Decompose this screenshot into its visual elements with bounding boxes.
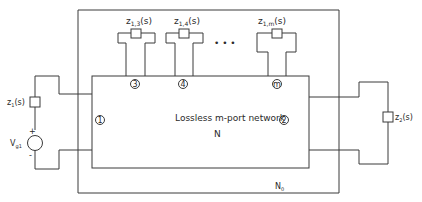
- z1m-label: z1,m(s): [258, 16, 286, 27]
- z1m-impedance-box: [272, 29, 282, 38]
- port1-bottom-wire: [35, 150, 92, 169]
- inner-network-name: N: [214, 129, 221, 139]
- svg-text:4: 4: [180, 80, 185, 89]
- port-3-marker: 3: [131, 80, 140, 90]
- port-m-marker: m: [273, 80, 282, 90]
- port-4-marker: 4: [179, 80, 188, 90]
- z2-label: z2(s): [395, 113, 413, 123]
- source-label: Vg1: [10, 139, 22, 150]
- port1-top-wire: [35, 76, 92, 97]
- voltage-source-circle: [28, 136, 43, 151]
- port2-top-wire: [309, 82, 388, 112]
- z13-impedance-box: [131, 29, 141, 38]
- source-plus: +: [29, 127, 36, 136]
- port4-loop: [166, 33, 203, 76]
- port3-loop: [118, 33, 155, 76]
- z2-impedance-box: [383, 112, 393, 122]
- port2-bottom-wire: [309, 122, 388, 164]
- z1-label: z1(s): [7, 98, 25, 108]
- svg-text:3: 3: [132, 80, 137, 89]
- z14-label: z1,4(s): [174, 16, 200, 27]
- z13-label: z1,3(s): [126, 16, 152, 27]
- source-minus: -: [29, 151, 32, 160]
- outer-network-label: N0: [275, 182, 284, 192]
- svg-text:m: m: [273, 80, 281, 89]
- z14-impedance-box: [179, 29, 189, 38]
- circuit-diagram: 1 2 3 4 m z1,3(s) z1,4(s) z1,m(s) z1(s) …: [0, 0, 422, 202]
- inner-network-title: Lossless m-port network: [175, 113, 286, 123]
- portm-loop: [257, 33, 296, 76]
- svg-text:1: 1: [97, 116, 102, 125]
- port-1-marker: 1: [96, 116, 105, 126]
- ellipsis: • • •: [214, 38, 236, 48]
- z1-impedance-box: [30, 97, 40, 107]
